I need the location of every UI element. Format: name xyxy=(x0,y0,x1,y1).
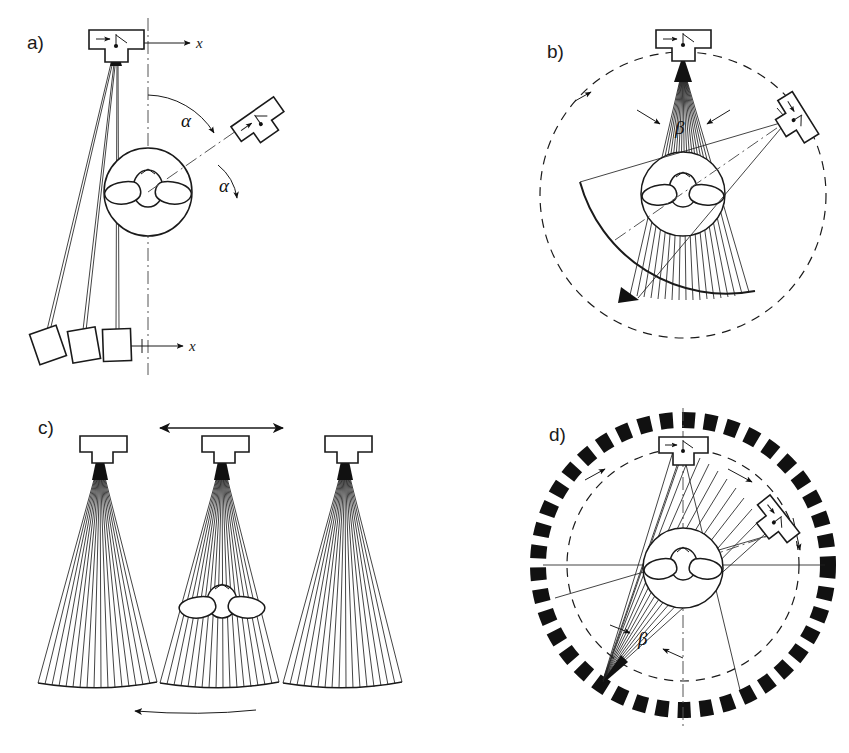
panel-a: a) x x xyxy=(0,0,425,390)
panel-b-beta-arrow-right xyxy=(707,110,730,124)
panel-d-scan-object xyxy=(643,528,723,608)
panel-c-xray-source-left xyxy=(80,436,127,463)
panel-b-beta-arrow-left xyxy=(637,110,660,124)
panel-d-xray-source-rotated xyxy=(748,495,800,550)
detector-box xyxy=(102,329,131,362)
panel-b-xray-source xyxy=(656,30,711,61)
panel-c-fan-rays-left xyxy=(38,458,157,688)
panel-c-fan-rays-middle xyxy=(160,458,279,688)
panel-a-lower-x-axis xyxy=(126,339,183,353)
panel-a-lower-x-label: x xyxy=(188,338,196,354)
ct-geometry-figure: a) x x xyxy=(0,0,849,753)
panel-b-label: b) xyxy=(547,41,564,62)
panel-a-alpha-label-upper: α xyxy=(181,110,192,131)
panel-b-xray-source-rotated xyxy=(768,91,819,149)
panel-d-beam-apex xyxy=(599,655,628,687)
panel-d-beta-arrow-right xyxy=(663,649,683,658)
panel-a-xray-source xyxy=(89,30,144,62)
panel-a-label: a) xyxy=(27,32,44,53)
panel-c-detector-arc-right xyxy=(283,682,402,688)
panel-b-detector-rotation-arrow xyxy=(618,287,639,303)
panel-c: c) xyxy=(0,390,425,753)
panel-d-xray-source xyxy=(659,437,708,465)
panel-a-xray-source-rotated xyxy=(231,97,291,151)
panel-b-beta-label: β xyxy=(674,117,685,138)
panel-c-xray-source-right xyxy=(325,436,372,463)
detector-box xyxy=(30,325,67,364)
panel-c-rotation-arrow xyxy=(135,710,256,713)
panel-b-scan-object xyxy=(641,152,725,236)
panel-b: b) xyxy=(425,0,849,390)
panel-d-rotation-arrow-right xyxy=(728,469,752,482)
panel-a-alpha-label-lower: α xyxy=(219,175,230,196)
panel-a-detectors xyxy=(30,325,132,364)
panel-d-beta-label: β xyxy=(637,628,648,649)
panel-c-xray-source-middle xyxy=(202,436,249,463)
panel-c-fan-rays-right xyxy=(283,458,402,688)
panel-c-detector-arc-left xyxy=(38,682,157,688)
panel-d-rotation-arrow-left xyxy=(585,469,605,480)
panel-c-label: c) xyxy=(38,417,54,438)
panel-d: d) β xyxy=(425,390,849,753)
panel-a-upper-x-label: x xyxy=(195,35,203,51)
panel-d-label: d) xyxy=(549,424,566,445)
panel-c-detector-arc-middle xyxy=(160,682,279,688)
panel-c-scan-object xyxy=(179,584,265,618)
detector-box xyxy=(67,327,100,363)
